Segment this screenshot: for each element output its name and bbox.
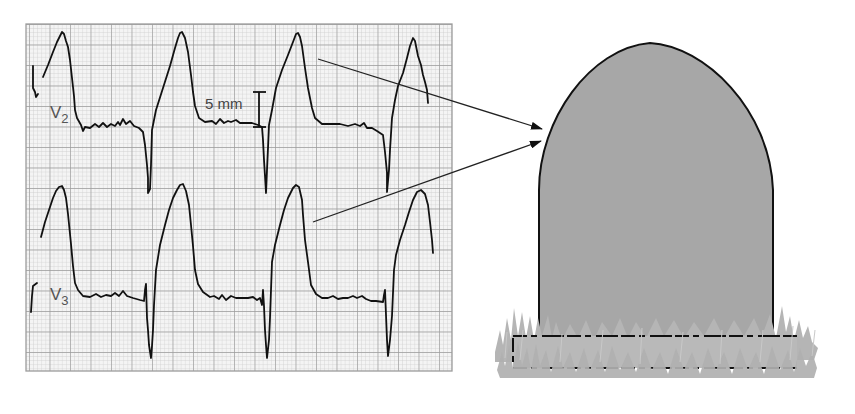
tombstone-illustration xyxy=(495,43,818,378)
ecg-tombstone-figure: V2 V3 5 mm xyxy=(0,0,855,414)
lead-v2-name: V xyxy=(50,103,62,122)
ecg-major-grid xyxy=(26,24,452,371)
lead-v3-name: V xyxy=(50,285,62,304)
scale-bar-label: 5 mm xyxy=(205,95,243,112)
lead-v2-subscript: 2 xyxy=(61,111,68,126)
lead-v3-subscript: 3 xyxy=(61,293,68,308)
tombstone-stone xyxy=(539,43,773,340)
ecg-strip: V2 V3 5 mm xyxy=(26,24,452,371)
